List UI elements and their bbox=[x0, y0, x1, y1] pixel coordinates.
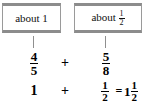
fraction-stack: 4 5 bbox=[30, 50, 39, 77]
callout-right-fraction: 1 2 bbox=[119, 10, 125, 27]
fraction-numerator: 5 bbox=[102, 50, 111, 63]
result-fraction-part: 1 2 bbox=[131, 80, 139, 103]
callout-left-prefix: about bbox=[15, 12, 42, 24]
result-mixed-number: 1 1 2 bbox=[124, 80, 146, 102]
callout-box-right: about 1 2 bbox=[74, 3, 142, 33]
fraction-denominator: 2 bbox=[101, 91, 109, 103]
callout-left-value: 1 bbox=[42, 12, 48, 24]
connector-line-right bbox=[105, 36, 106, 48]
fraction-four-fifths: 4 5 bbox=[24, 50, 44, 76]
callout-box-left: about 1 bbox=[2, 3, 61, 33]
fraction-numerator: 4 bbox=[30, 50, 39, 63]
diagram-canvas: about 1 about 1 2 4 5 + 5 8 1 + 1 2 = bbox=[0, 0, 146, 103]
fraction-numerator: 1 bbox=[131, 80, 139, 91]
plus-operator-top: + bbox=[56, 50, 74, 76]
fraction-numerator: 1 bbox=[119, 10, 125, 18]
connector-line-left bbox=[33, 36, 34, 48]
fraction-denominator: 2 bbox=[119, 18, 125, 27]
plus-operator-bottom: + bbox=[56, 80, 74, 102]
fraction-stack: 1 2 bbox=[101, 80, 109, 103]
fraction-stack: 5 8 bbox=[102, 50, 111, 77]
callout-right-text: about 1 2 bbox=[91, 10, 124, 27]
fraction-denominator: 5 bbox=[30, 63, 39, 77]
fraction-denominator: 2 bbox=[131, 91, 139, 103]
callout-right-prefix: about bbox=[91, 11, 118, 23]
fraction-numerator: 1 bbox=[101, 80, 109, 91]
callout-left-text: about 1 bbox=[15, 13, 48, 24]
fraction-denominator: 8 bbox=[102, 63, 111, 77]
fraction-five-eighths: 5 8 bbox=[96, 50, 116, 76]
estimate-value-one: 1 bbox=[24, 80, 44, 102]
